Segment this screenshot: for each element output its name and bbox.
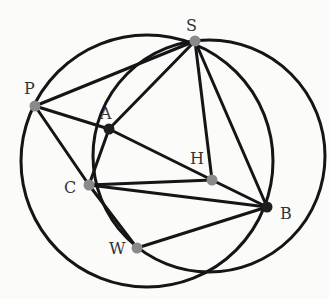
- point-w: [132, 243, 143, 254]
- label-w: W: [109, 239, 126, 258]
- segment-cb: [89, 185, 267, 207]
- segment-pc: [35, 106, 89, 185]
- point-s: [190, 36, 201, 47]
- left-circle: [21, 35, 273, 287]
- points-layer: [30, 36, 273, 254]
- segment-ps: [35, 41, 195, 106]
- label-h: H: [190, 149, 204, 168]
- label-a: A: [99, 104, 112, 123]
- point-p: [30, 101, 41, 112]
- point-a: [104, 124, 115, 135]
- label-c: C: [64, 178, 76, 197]
- segment-ch: [89, 180, 212, 185]
- segment-pa: [35, 106, 109, 129]
- label-p: P: [24, 79, 35, 98]
- segments-layer: [35, 41, 267, 248]
- label-b: B: [280, 204, 292, 223]
- segment-wb: [137, 207, 267, 248]
- geometry-diagram: SPAHCBW: [0, 0, 329, 299]
- point-c: [84, 180, 95, 191]
- diagram-canvas: SPAHCBW: [0, 0, 329, 299]
- point-h: [207, 175, 218, 186]
- label-s: S: [186, 16, 197, 35]
- point-b: [262, 202, 273, 213]
